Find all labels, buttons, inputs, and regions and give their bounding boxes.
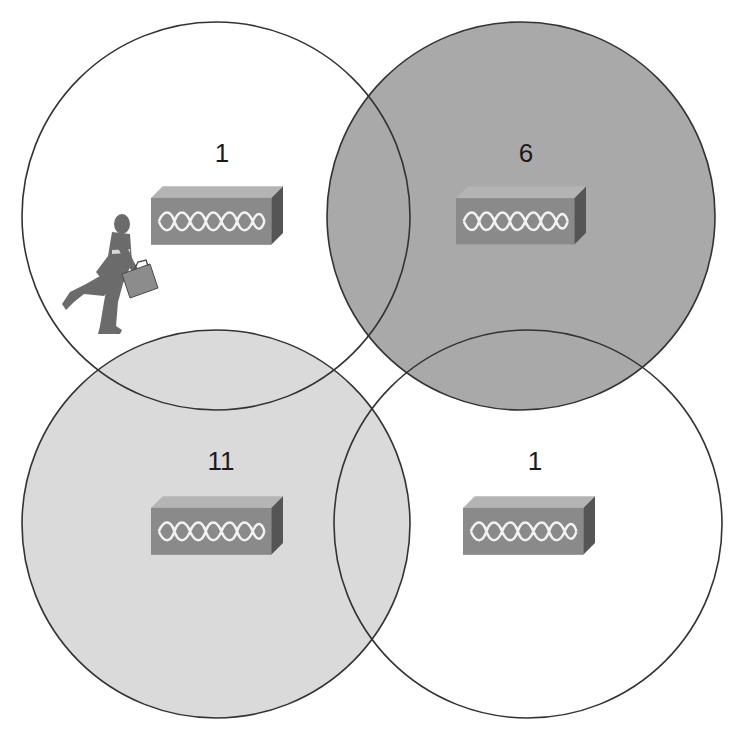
channel-label-bottom-left: 11: [208, 446, 235, 476]
channel-label-top-left: 1: [215, 138, 229, 168]
cell-fills: [22, 22, 722, 718]
access-point-icon: [151, 496, 283, 555]
channel-label-top-right: 6: [519, 138, 533, 168]
access-point-icon: [463, 496, 595, 555]
channel-label-bottom-right: 1: [528, 446, 542, 476]
access-point-icon: [151, 186, 283, 245]
access-point-icon: [456, 187, 586, 245]
coverage-diagram: 1 6 11 1: [0, 0, 740, 736]
